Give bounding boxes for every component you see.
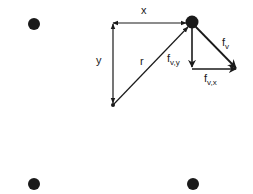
label-fvy: fv,y	[167, 53, 180, 67]
label-y: y	[96, 55, 102, 66]
vortex-bottom-left	[28, 178, 40, 190]
label-r: r	[140, 56, 144, 67]
vortex-bottom-right	[187, 178, 199, 190]
fv-resultant-arrow	[194, 25, 236, 68]
label-fvy-sub: v,y	[170, 58, 180, 67]
vortex-top-left	[28, 18, 40, 30]
label-fvx: fv,x	[204, 73, 217, 87]
label-fv-sub: v	[225, 42, 229, 51]
label-fv: fv	[222, 37, 229, 51]
diagram-graphics	[0, 0, 253, 194]
label-fvx-sub: v,x	[207, 78, 217, 87]
vortex-velocity-diagram: x y r fv fv,y fv,x	[0, 0, 253, 194]
label-x: x	[141, 5, 147, 16]
